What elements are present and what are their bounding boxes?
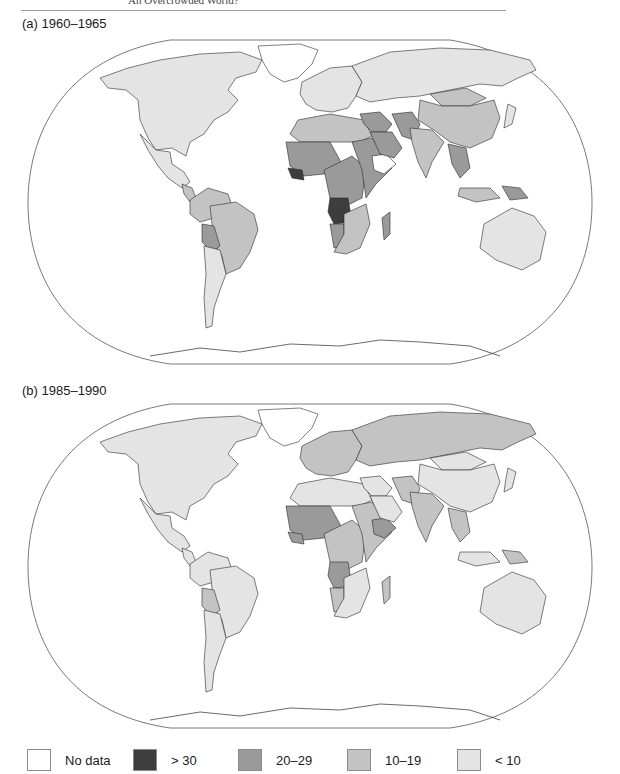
map-b-caption: (b) 1985–1990 xyxy=(22,383,107,398)
legend-item-20-29: 20–29 xyxy=(238,747,312,773)
legend-label: 20–29 xyxy=(276,753,312,768)
legend-swatch-no-data xyxy=(27,749,51,771)
legend-label: 10–19 xyxy=(385,753,421,768)
legend-item-no-data: No data xyxy=(27,747,111,773)
header-rule xyxy=(21,10,506,11)
legend-swatch-10-19 xyxy=(347,749,371,771)
legend-item-gt30: > 30 xyxy=(133,747,197,773)
legend-label: > 30 xyxy=(171,753,197,768)
world-map-1985-1990 xyxy=(0,402,620,732)
legend-swatch-gt30 xyxy=(133,749,157,771)
legend-item-10-19: 10–19 xyxy=(347,747,421,773)
world-map-1960-1965 xyxy=(0,38,620,368)
map-legend: No data > 30 20–29 10–19 < 10 xyxy=(0,743,620,773)
legend-swatch-lt10 xyxy=(457,749,481,771)
legend-label: < 10 xyxy=(495,753,521,768)
legend-item-lt10: < 10 xyxy=(457,747,521,773)
map-a-caption: (a) 1960–1965 xyxy=(22,16,107,31)
legend-swatch-20-29 xyxy=(238,749,262,771)
running-head: An Overcrowded World? xyxy=(128,0,239,6)
legend-label: No data xyxy=(65,753,111,768)
